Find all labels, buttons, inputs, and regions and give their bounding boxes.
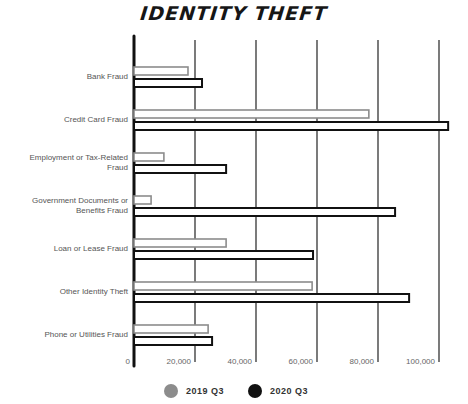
category-label: Phone or Utilities Fraud <box>0 330 128 340</box>
bar-2020 <box>134 165 226 173</box>
x-tick-label: 40,000 <box>212 357 252 366</box>
bar-2020 <box>134 122 448 130</box>
category-label: Bank Fraud <box>0 72 128 82</box>
x-tick-label: 100,000 <box>395 357 435 366</box>
x-tick-label: 0 <box>90 357 130 366</box>
bar-2020 <box>134 337 212 345</box>
legend-label-2019: 2019 Q3 <box>186 386 224 396</box>
x-tick-label: 20,000 <box>151 357 191 366</box>
legend-item-2020: 2020 Q3 <box>248 384 308 398</box>
category-label: Loan or Lease Fraud <box>0 244 128 254</box>
legend-swatch-2019-icon <box>164 384 178 398</box>
bar-2019 <box>134 282 312 290</box>
legend-label-2020: 2020 Q3 <box>270 386 308 396</box>
bar-2019 <box>134 239 226 247</box>
bar-2019 <box>134 325 208 333</box>
legend-swatch-2020-icon <box>248 384 262 398</box>
category-label: Employment or Tax-RelatedFraud <box>0 153 128 173</box>
category-label: Other Identity Theft <box>0 287 128 297</box>
bar-2020 <box>134 208 395 216</box>
bar-2019 <box>134 196 151 204</box>
bar-2020 <box>134 294 409 302</box>
x-tick-label: 60,000 <box>273 357 313 366</box>
bar-2020 <box>134 79 202 87</box>
bar-2020 <box>134 251 313 259</box>
legend-item-2019: 2019 Q3 <box>164 384 224 398</box>
bar-2019 <box>134 153 164 161</box>
category-label: Government Documents orBenefits Fraud <box>0 196 128 216</box>
bar-2019 <box>134 110 369 118</box>
category-label: Credit Card Fraud <box>0 115 128 125</box>
x-tick-label: 80,000 <box>334 357 374 366</box>
bar-2019 <box>134 67 188 75</box>
